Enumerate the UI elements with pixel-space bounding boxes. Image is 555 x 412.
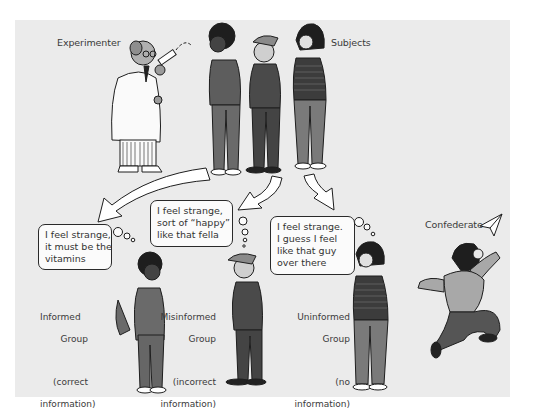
group-info: (incorrect — [157, 377, 216, 388]
group-info: (no — [293, 377, 350, 388]
thought-bubble-informed: I feel strange, it must be the vitamins — [38, 224, 112, 270]
thought-bubble-misinformed: I feel strange, sort of “happy” like tha… — [150, 200, 233, 247]
group-name: Misinformed — [157, 312, 216, 323]
thought-text: sort of “happy” — [157, 217, 226, 229]
thought-bubble-uninformed: I feel strange. I guess I feel like that… — [270, 216, 355, 275]
misinformed-group-label: Misinformed Group (incorrect information… — [157, 301, 216, 412]
confederate-figure — [418, 243, 500, 358]
uninformed-subject-figure — [353, 242, 388, 390]
subjects-label: Subjects — [331, 37, 371, 49]
uninformed-group-label: Uninformed Group (no information) — [293, 301, 350, 412]
experimenter-label: Experimenter — [57, 37, 120, 49]
subject-informed-standing — [209, 23, 241, 175]
thought-text: like that guy — [277, 245, 348, 257]
arrow-to-misinformed — [238, 176, 282, 210]
thought-text: vitamins — [45, 253, 105, 265]
thought-text: I guess I feel — [277, 233, 348, 245]
arrow-to-uninformed — [304, 174, 334, 210]
thought-text: I feel strange, — [157, 205, 226, 217]
group-name: Group — [157, 334, 216, 345]
informed-group-label: Informed Group (correct information) — [40, 301, 88, 412]
group-name: Group — [293, 334, 350, 345]
group-name: Informed — [40, 312, 88, 323]
confederate-label: Confederate — [425, 219, 483, 231]
thought-text: I feel strange, — [45, 229, 105, 241]
thought-text: like that fella — [157, 229, 226, 241]
paper-airplane-icon — [480, 214, 502, 236]
group-info: (correct — [40, 377, 88, 388]
group-name: Group — [40, 334, 88, 345]
thought-text: it must be the — [45, 241, 105, 253]
thought-text: over there — [277, 257, 348, 269]
thought-text: I feel strange. — [277, 221, 348, 233]
group-info: information) — [293, 399, 350, 410]
group-info: information) — [40, 399, 88, 410]
group-name: Uninformed — [293, 312, 350, 323]
subject-uninformed-standing — [293, 24, 326, 169]
group-info: information) — [157, 399, 216, 410]
misinformed-subject-figure — [226, 254, 266, 385]
subject-misinformed-standing — [246, 36, 281, 173]
experimenter-figure — [112, 41, 192, 172]
